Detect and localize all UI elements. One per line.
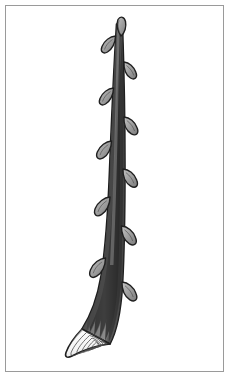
- twig-illustration: [0, 0, 230, 378]
- stem-group: [82, 24, 125, 344]
- lateral-bud-10: [122, 282, 137, 301]
- lateral-bud-3: [99, 88, 113, 105]
- figure-root: Woody twig with alternate buds and cut b…: [0, 0, 230, 378]
- lateral-bud-4: [124, 117, 138, 135]
- lateral-bud-2: [124, 62, 137, 79]
- lateral-bud-1: [101, 36, 115, 53]
